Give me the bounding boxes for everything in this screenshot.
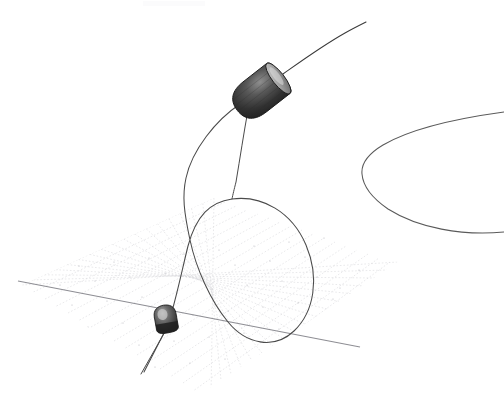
lower-body bbox=[153, 303, 180, 334]
upper-cone-surface bbox=[226, 60, 294, 125]
trajectory-figure bbox=[0, 0, 504, 397]
upper-cone-body bbox=[226, 60, 295, 126]
grid-lines-v bbox=[22, 198, 390, 397]
grid-intersection-dots bbox=[43, 237, 359, 371]
mesh-plane bbox=[22, 198, 398, 397]
trajectory-upper-exit bbox=[283, 22, 366, 74]
figure-root bbox=[0, 0, 504, 397]
trajectory-descent-segment bbox=[232, 110, 248, 199]
hyperbolic-arc-right bbox=[362, 112, 504, 233]
